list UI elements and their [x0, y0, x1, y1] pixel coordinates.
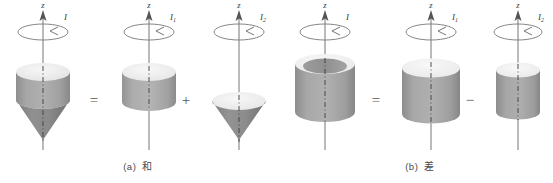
rotation-arrowhead-icon: [50, 27, 58, 35]
rotation-arrowhead-icon: [246, 27, 254, 35]
unit-a3: z I2: [194, 0, 284, 155]
moment-label-I: I: [345, 12, 350, 22]
operator-equals-a: =: [86, 92, 102, 109]
moment-label-I1: I1: [451, 12, 458, 23]
rotation-arrowhead-icon: [438, 27, 446, 35]
moment-label-I2: I2: [537, 12, 544, 23]
axis-label-z: z: [236, 0, 241, 10]
unit-a2-drawing: z I1: [104, 0, 194, 155]
unit-b1-drawing: z I: [280, 0, 370, 155]
unit-a1: z I: [0, 0, 88, 155]
operator-equals-b: =: [368, 92, 384, 109]
caption-b-tag: (b): [405, 161, 418, 172]
caption-a-text: 和: [136, 161, 153, 172]
caption-a: (a)和: [68, 158, 208, 173]
axis-label-z: z: [40, 0, 45, 10]
figure-group-a: z I =: [0, 0, 276, 183]
operator-plus-a: +: [178, 92, 194, 109]
axis-label-z: z: [146, 0, 151, 10]
unit-b3-drawing: z I2: [476, 0, 553, 155]
caption-b: (b)差: [350, 158, 490, 173]
moment-of-inertia-figure: z I =: [0, 0, 553, 183]
moment-label-I: I: [63, 12, 68, 22]
unit-a3-drawing: z I2: [194, 0, 284, 155]
caption-a-tag: (a): [123, 161, 136, 172]
axis-label-z: z: [428, 0, 433, 10]
rotation-arrowhead-icon: [332, 27, 340, 35]
axis-label-z: z: [515, 0, 520, 10]
rotation-arrowhead-icon: [156, 27, 164, 35]
figure-group-b: z I =: [280, 0, 553, 183]
unit-b2-drawing: z I1: [386, 0, 476, 155]
caption-b-text: 差: [418, 161, 435, 172]
unit-b1: z I: [280, 0, 370, 155]
rotation-arrowhead-icon: [524, 27, 532, 35]
moment-label-I2: I2: [259, 12, 266, 23]
unit-b2: z I1: [386, 0, 476, 155]
unit-a1-drawing: z I: [0, 0, 88, 155]
unit-a2: z I1: [104, 0, 194, 155]
axis-label-z: z: [322, 0, 327, 10]
unit-b3: z I2: [476, 0, 553, 155]
moment-label-I1: I1: [169, 12, 176, 23]
